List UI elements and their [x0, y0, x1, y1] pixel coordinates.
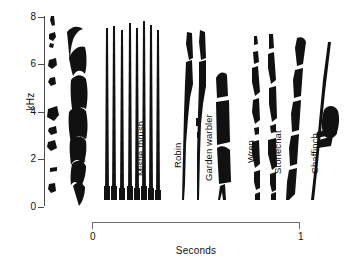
- x-axis-title: Seconds: [92, 245, 300, 256]
- trace-blackbird-spots: [47, 16, 59, 193]
- bird-song-spectrogram-figure: kHz 0 2 4 6 8: [0, 0, 345, 263]
- trace-mistle-thrush: [104, 21, 161, 200]
- y-tick-label-4: 4: [22, 107, 36, 117]
- y-tick-label-8: 8: [22, 12, 36, 22]
- y-tick-label-0: 0: [22, 202, 36, 212]
- species-label-mistle-thrush: Mistle thrush: [135, 121, 146, 176]
- species-label-garden-warbler: Garden warbler: [203, 114, 214, 181]
- species-label-blackbird: Blackbird: [76, 123, 87, 163]
- x-tick-label-start: 0: [90, 231, 96, 242]
- trace-garden-warbler: [216, 73, 231, 200]
- x-tick-label-end: 1: [298, 231, 304, 242]
- y-tick-label-2: 2: [22, 154, 36, 164]
- x-scalebar-cap-right: [299, 222, 300, 229]
- trace-wren: [252, 34, 277, 200]
- species-label-wren: Wren: [245, 140, 256, 163]
- trace-stonechat: [286, 37, 306, 200]
- trace-chaffinch: [311, 42, 339, 200]
- species-label-stonechat: Stonechat: [272, 130, 283, 174]
- trace-blackbird-band: [67, 27, 88, 206]
- species-label-chaffinch: Chaffinch: [309, 133, 320, 174]
- spectrogram-plot-area: [45, 14, 341, 208]
- species-label-robin: Robin: [172, 143, 183, 168]
- x-axis-scalebar: [92, 222, 300, 223]
- y-tick-label-6: 6: [22, 59, 36, 69]
- x-scalebar-cap-left: [92, 222, 93, 229]
